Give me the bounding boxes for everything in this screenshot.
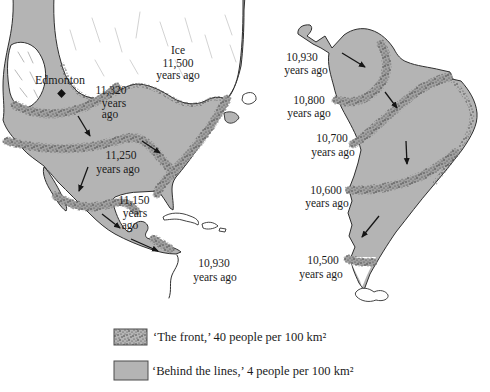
front-stipple-swatch-texture — [114, 329, 147, 345]
puerto-rico-outline — [219, 228, 226, 232]
na-front-label-11250: 11,250 — [105, 149, 136, 162]
behind-plain-swatch — [114, 361, 148, 380]
sa-front-label-10800: 10,800 — [293, 94, 325, 107]
cuba-outline — [163, 213, 199, 225]
legend-front-label: ‘The front,’ 40 people per 100 km² — [153, 330, 327, 344]
na-front-label-11250-l2: years ago — [96, 163, 140, 176]
na-front-label-11150: 11,150 — [118, 194, 149, 207]
front-band-10500 — [348, 259, 373, 262]
nova-scotia — [224, 112, 239, 123]
sa-front-label-10930-l2: years ago — [284, 64, 328, 77]
americas-migration-map: Edmonton Ice 11,500 years ago 11,320 yea… — [0, 0, 490, 392]
sa-front-label-10930: 10,930 — [286, 51, 318, 64]
edmonton-label: Edmonton — [35, 73, 85, 87]
colombia-coastline-hint — [169, 255, 178, 298]
sa-front-label-10800-l2: years ago — [287, 107, 331, 120]
na-front-label-11150-l3: ago — [122, 219, 139, 232]
legend-behind-label: ‘Behind the lines,’ 4 people per 100 km² — [152, 364, 354, 378]
sa-front-label-10500: 10,500 — [307, 254, 339, 267]
americas-colonization-figure: Edmonton Ice 11,500 years ago 11,320 yea… — [0, 0, 490, 392]
legend-item-front: ‘The front,’ 40 people per 100 km² — [114, 329, 327, 345]
na-front-label-10930-l2: years ago — [193, 271, 237, 284]
sa-front-label-10500-l2: years ago — [299, 268, 343, 281]
sa-front-label-10600-l2: years ago — [305, 197, 349, 210]
na-front-label-10930: 10,930 — [198, 257, 230, 270]
legend-item-behind: ‘Behind the lines,’ 4 people per 100 km² — [114, 361, 354, 380]
ice-label-line2: 11,500 — [162, 57, 193, 70]
newfoundland-outline — [242, 93, 256, 105]
tierra-del-fuego-outline — [355, 288, 388, 301]
ice-label-line1: Ice — [171, 44, 185, 56]
ice-label-line3: years ago — [156, 69, 200, 82]
north-america-map: Edmonton Ice 11,500 years ago 11,320 yea… — [3, 0, 256, 298]
sa-front-label-10600: 10,600 — [310, 184, 342, 197]
south-america-map: 10,930 years ago 10,800 years ago 10,700… — [284, 25, 477, 302]
legend: ‘The front,’ 40 people per 100 km² ‘Behi… — [114, 329, 354, 380]
sa-front-label-10700: 10,700 — [316, 132, 348, 145]
hispaniola-outline — [202, 222, 218, 229]
na-front-label-11150-l2: years — [123, 207, 148, 220]
na-front-label-11320-l3: ago — [102, 108, 119, 121]
na-front-label-11320: 11,320 — [95, 84, 126, 97]
sa-front-label-10700-l2: years ago — [311, 146, 355, 159]
